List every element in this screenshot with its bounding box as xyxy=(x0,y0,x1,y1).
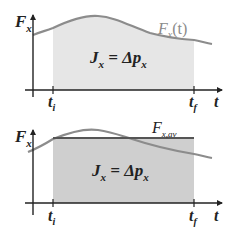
ti-label-bottom: ti xyxy=(48,207,55,227)
x-axis-label: t xyxy=(214,93,219,110)
tf-label-bottom: tf xyxy=(189,207,198,227)
x-axis-label-bottom: t xyxy=(214,207,219,224)
ti-label: ti xyxy=(48,93,55,113)
y-axis-label: Fx xyxy=(14,12,32,34)
average-force-label: Fx,av xyxy=(151,119,177,139)
bottom-panel: Fx Fx,av Jx = Δpx t ti tf xyxy=(14,119,222,227)
top-panel: Fx Fx(t) Jx = Δpx t ti tf xyxy=(14,12,222,113)
impulse-label: Jx = Δpx xyxy=(89,48,147,70)
tf-label: tf xyxy=(189,93,198,113)
impulse-diagram: Fx Fx(t) Jx = Δpx t ti tf xyxy=(0,0,235,233)
impulse-label-bottom: Jx = Δpx xyxy=(91,161,149,183)
y-axis-label-bottom: Fx xyxy=(14,127,32,149)
